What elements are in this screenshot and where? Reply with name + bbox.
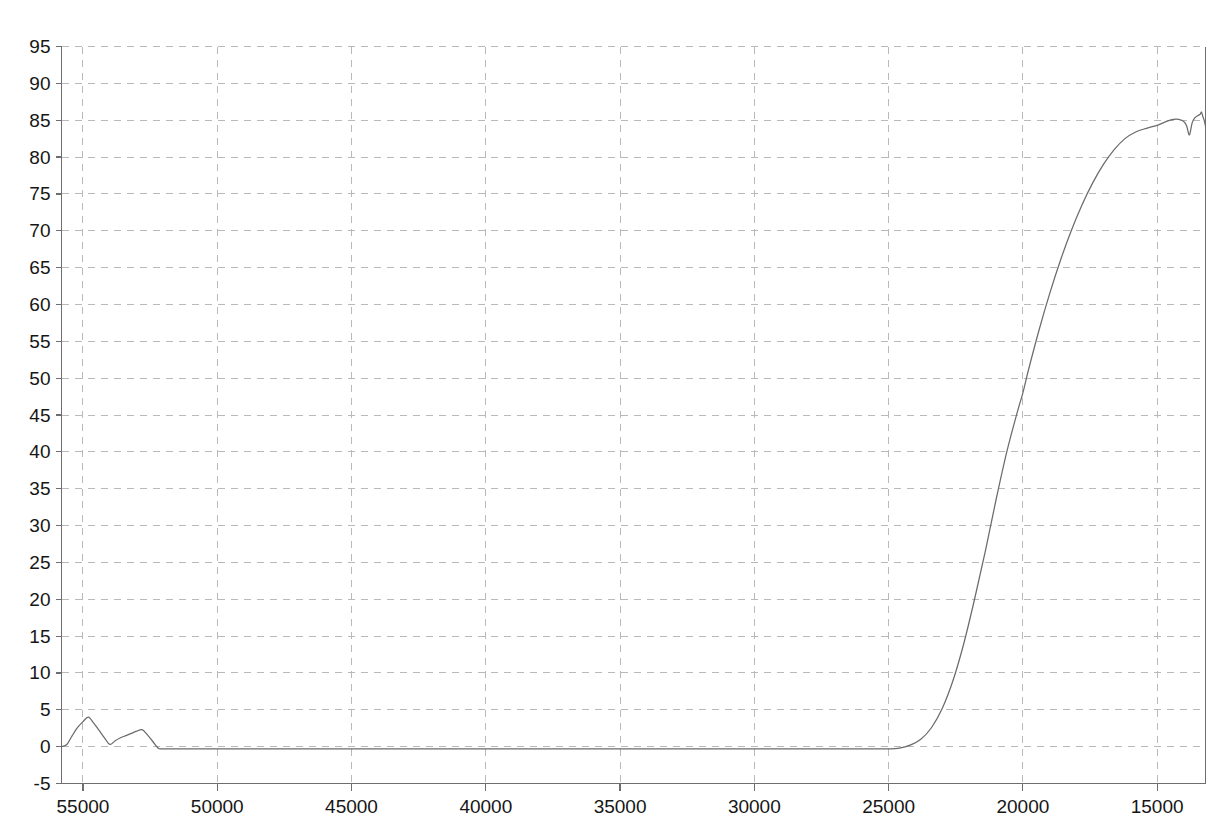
- y-tick-label: 55: [29, 331, 50, 352]
- spectrum-chart: -505101520253035404550556065707580859095…: [0, 0, 1231, 840]
- x-tick-label: 45000: [325, 796, 378, 817]
- y-tick-label: 60: [29, 294, 50, 315]
- y-tick-label: -5: [34, 773, 51, 794]
- y-tick-label: 0: [40, 736, 51, 757]
- x-tick-label: 40000: [459, 796, 512, 817]
- x-tick-label: 25000: [862, 796, 915, 817]
- y-tick-label: 30: [29, 515, 50, 536]
- y-tick-label: 85: [29, 110, 50, 131]
- y-tick-label: 50: [29, 368, 50, 389]
- y-tick-label: 10: [29, 662, 50, 683]
- y-tick-label: 45: [29, 405, 50, 426]
- y-tick-label: 40: [29, 441, 50, 462]
- y-tick-label: 20: [29, 589, 50, 610]
- x-tick-label: 55000: [57, 796, 110, 817]
- y-tick-label: 95: [29, 36, 50, 57]
- y-tick-label: 75: [29, 183, 50, 204]
- x-tick-label: 20000: [996, 796, 1049, 817]
- y-tick-label: 90: [29, 73, 50, 94]
- chart-canvas: -505101520253035404550556065707580859095…: [0, 0, 1231, 840]
- y-axis-tick-labels: -505101520253035404550556065707580859095: [29, 36, 50, 794]
- y-tick-label: 65: [29, 257, 50, 278]
- chart-background: [0, 0, 1231, 840]
- x-axis-tick-labels: 5500050000450004000035000300002500020000…: [57, 796, 1184, 817]
- y-tick-label: 5: [40, 699, 51, 720]
- y-tick-label: 15: [29, 626, 50, 647]
- x-tick-label: 15000: [1131, 796, 1184, 817]
- y-tick-label: 80: [29, 147, 50, 168]
- x-tick-label: 30000: [728, 796, 781, 817]
- x-tick-label: 50000: [191, 796, 244, 817]
- y-tick-label: 35: [29, 478, 50, 499]
- y-tick-label: 70: [29, 220, 50, 241]
- y-tick-label: 25: [29, 552, 50, 573]
- x-tick-label: 35000: [594, 796, 647, 817]
